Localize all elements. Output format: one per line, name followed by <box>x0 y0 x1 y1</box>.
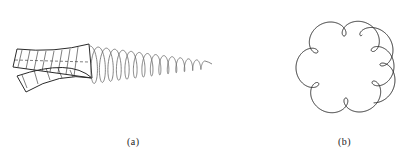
helix-spring <box>90 46 212 83</box>
figure-canvas <box>0 0 418 159</box>
panel-a-label: (a) <box>127 136 140 147</box>
drill-bit <box>13 44 92 92</box>
looping-curve-overlap <box>360 27 395 102</box>
panel-b-label: (b) <box>338 136 351 147</box>
looping-curve <box>296 21 394 112</box>
